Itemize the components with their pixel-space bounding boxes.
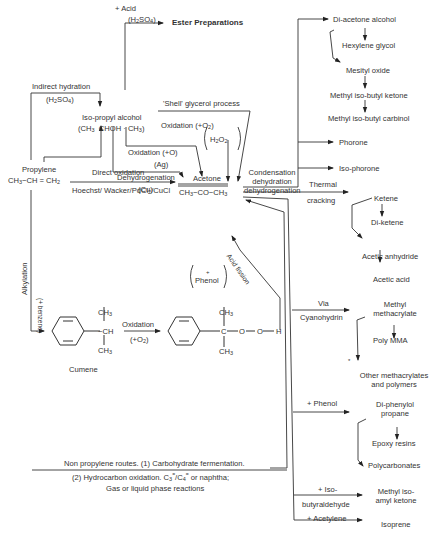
alkylation-label: Alkylation [20,263,29,296]
hydroperoxide-c: C [221,327,226,336]
node-ketene[interactable]: Ketene [374,194,398,203]
footnote-line-2: (2) Hydrocarbon oxidation. C3=/C4= or na… [72,473,229,482]
shell-glycerol-label: 'Shell' glycerol process [163,99,240,108]
node-hexylene-glycol[interactable]: Hexylene glycol [342,41,395,50]
node-phorone[interactable]: Phorone [339,138,368,147]
node-other-methacrylates[interactable]: Other methacrylates and polymers [354,371,434,389]
di-phenylol-line-2: propane [360,409,430,418]
other-methacrylates-line-1: Other methacrylates [354,371,434,380]
node-propylene[interactable]: Propylene [22,165,56,174]
node-acetic-anhydride[interactable]: Acetic anhydride [362,252,418,261]
hydroperoxide-ch3-bottom: CH3 [219,347,233,356]
condensation-line-2: dehydration [244,177,300,186]
cracking-label: cracking [307,196,335,205]
hoechst-wacker-label: Hoechst/ Wacker/PdCl2/CuCl [72,186,170,195]
node-methyl-methacrylate[interactable]: Methyl methacrylate [364,300,426,318]
methyl-iso-amyl-line-2: amyl ketone [366,496,426,505]
plus-iso-label: + Iso- [318,485,337,494]
cumene-ch3-bottom: CH3 [98,346,112,355]
methyl-iso-amyl-line-1: Methyl iso- [366,487,426,496]
di-phenylol-line-1: Di-phenylol [360,400,430,409]
thermal-label: Thermal [309,180,337,189]
node-isoprene[interactable]: Isoprene [381,520,411,529]
node-di-phenylol-propane[interactable]: Di-phenylol propane [360,400,430,418]
oxidation-o-label: Oxidation (+O) [128,148,178,157]
cumene-oxidation-label: Oxidation [122,320,154,329]
node-mesityl-oxide[interactable]: Mesityl oxide [346,66,390,75]
cumene-ch3-top: CH3 [98,308,112,317]
hydroperoxide-h: H [276,327,281,336]
benzene-label: (+ benzene) [36,298,45,333]
cyanohydrin-label: Cyanohydrin [300,313,343,322]
plus-phenol-label: + Phenol [307,399,337,408]
iso-propyl-alcohol-formula: (CH3 CHOH · CH3) [78,124,144,133]
node-ester-preparations[interactable]: Ester Preparations [172,18,243,27]
oxidation-o-catalyst: (Ag) [154,160,168,169]
node-iso-propyl-alcohol[interactable]: Iso-propyl alcohol [82,113,142,122]
plus-acetylene-label: + Acetylene [307,514,346,523]
node-acetic-acid[interactable]: Acetic acid [373,275,410,284]
node-cumene[interactable]: Cumene [69,365,98,374]
propylene-formula: CH3−CH = CH2 [8,176,60,185]
cumene-oxidation-reagent: (+O2) [130,335,148,344]
node-acetone[interactable]: Acetone [193,174,221,183]
node-methyl-iso-amyl-ketone[interactable]: Methyl iso- amyl ketone [366,487,426,505]
condensation-line-3: dehydrogenation [244,186,300,195]
asterisk-mark: * [348,357,350,366]
hydroperoxide-o2: O [257,327,263,336]
acid-catalyst: (H2SO4) [128,15,156,24]
acetone-formula: CH3−CO−CH3 [179,188,227,197]
phenol-byproduct-label: Phenol [195,276,219,285]
node-iso-phorone[interactable]: Iso-phorone [339,164,380,173]
condensation-line-1: Condensation [244,168,300,177]
via-label: Via [318,299,329,308]
node-di-acetone-alcohol[interactable]: Di-acetone alcohol [333,15,396,24]
footnote-line-3: Gas or liquid phase reactions [106,484,204,493]
condensation-label: Condensation dehydration dehydrogenation [244,168,300,195]
oxidation-o2-label: Oxidation (+O2) [161,121,214,130]
node-methyl-iso-butyl-ketone[interactable]: Methyl iso-butyl ketone [330,91,408,100]
node-methyl-iso-butyl-carbinol[interactable]: Methyl iso-butyl carbinol [328,114,409,123]
node-epoxy-resins[interactable]: Epoxy resins [372,439,415,448]
h2o2-label: H2O2 [210,135,228,144]
node-di-ketene[interactable]: Di-ketene [371,218,404,227]
other-methacrylates-line-2: and polymers [354,380,434,389]
indirect-hydration-catalyst: (H2SO4) [46,95,74,104]
hydroperoxide-ch3-top: CH3 [219,308,233,317]
hydroperoxide-o1: O [239,327,245,336]
methyl-methacrylate-line-2: methacrylate [364,309,426,318]
butyraldehyde-label: butyraldehyde [302,500,350,509]
acid-label: + Acid [115,4,136,13]
methyl-methacrylate-line-1: Methyl [364,300,426,309]
footnote-line-1: Non propylene routes. (1) Carbohydrate f… [64,459,245,468]
direct-oxidation-label: Direct oxidation [92,168,144,177]
node-polycarbonates[interactable]: Polycarbonates [368,461,420,470]
indirect-hydration-label: Indirect hydration [32,82,90,91]
cumene-ch: −CH [98,327,113,336]
node-poly-mma[interactable]: Poly MMA [373,336,408,345]
